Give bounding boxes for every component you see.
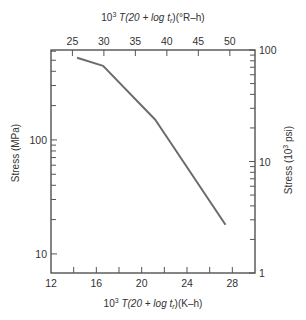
x-tick-label: 20 [136,277,148,289]
axis-ticks [51,50,255,273]
left-axis-title: Stress (MPa) [10,124,21,182]
y-right-tick-label: 10 [259,156,271,168]
x-top-tick-label: 25 [67,35,79,47]
x-top-tick-label: 45 [192,35,204,47]
x-tick-label: 24 [181,277,193,289]
x-tick-label: 12 [45,277,57,289]
x-tick-label: 28 [226,277,238,289]
y-right-tick-label: 100 [259,44,277,56]
bottom-axis-title: 103 T(20 + log tr)(K–h) [104,297,203,310]
x-tick-label: 16 [90,277,102,289]
plot-frame [51,50,255,273]
x-top-tick-label: 40 [161,35,173,47]
x-top-tick-label: 30 [98,35,110,47]
data-line [77,58,225,225]
top-axis-title: 103 T(20 + log tr)(°R–h) [101,11,204,24]
y-tick-label: 100 [29,134,47,146]
y-tick-label: 10 [35,248,47,260]
tick-labels: 121620242825303540455010100110100 [29,35,276,289]
x-top-tick-label: 35 [130,35,142,47]
y-right-tick-label: 1 [259,267,265,279]
x-top-tick-label: 50 [224,35,236,47]
right-axis-title: Stress (103 psi) [282,126,294,194]
larson-miller-chart: 121620242825303540455010100110100 103 T(… [0,0,306,320]
